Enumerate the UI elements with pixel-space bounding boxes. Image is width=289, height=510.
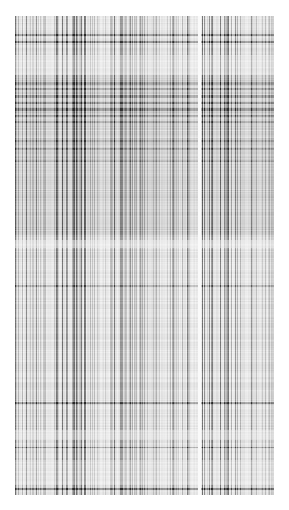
line-matrix-texture: [15, 16, 274, 495]
